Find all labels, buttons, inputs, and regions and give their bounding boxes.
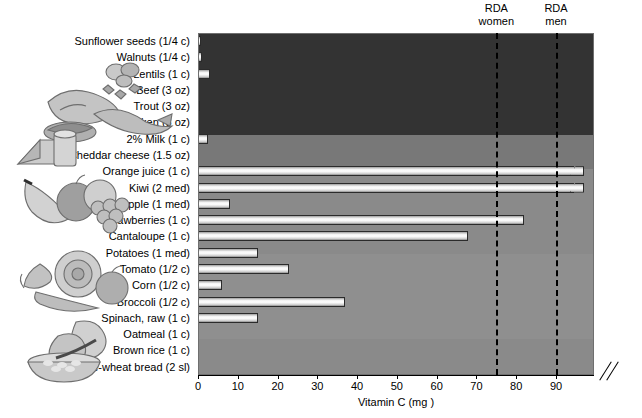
rda-men-line2: men: [516, 15, 596, 28]
vitamin-c-bar-chart: Sunflower seeds (1/4 c)Walnuts (1/4 c)Le…: [0, 0, 642, 418]
x-tick: [357, 375, 358, 379]
bar-row: [198, 245, 594, 262]
bar-row: [198, 98, 594, 115]
bar: [198, 52, 202, 62]
rda-men-line1: RDA: [516, 2, 596, 15]
bar-row: [198, 359, 594, 375]
x-tick: [476, 375, 477, 379]
bar: [198, 215, 524, 225]
bar-row: [198, 277, 594, 294]
x-tick: [278, 375, 279, 379]
plot-area: [198, 33, 594, 375]
bar: [198, 166, 574, 176]
x-tick: [516, 375, 517, 379]
bar-row: [198, 228, 594, 245]
dairy-illustration: [14, 128, 90, 170]
x-tick-label: 60: [417, 380, 457, 392]
bar: [198, 134, 208, 144]
x-axis-title: Vitamin C (mg ): [198, 396, 594, 408]
bar-row: [198, 326, 594, 343]
bar: [198, 248, 258, 258]
bar: [198, 101, 200, 111]
bar-row: [198, 261, 594, 278]
x-tick: [317, 375, 318, 379]
category-label: Sunflower seeds (1/4 c): [74, 33, 190, 50]
vegetable-illustration: [16, 248, 156, 314]
bar-row: [198, 163, 594, 180]
bar-row: [198, 196, 594, 213]
bar-row: [198, 114, 594, 131]
bar-row: [198, 131, 594, 148]
bar: [198, 69, 210, 79]
x-tick: [238, 375, 239, 379]
bar-row: [198, 310, 594, 327]
x-tick: [437, 375, 438, 379]
x-tick-label: 90: [536, 380, 576, 392]
bar-row: [198, 82, 594, 99]
axis-break-icon: [597, 360, 623, 382]
bar: [198, 36, 201, 46]
bar-row: [198, 294, 594, 311]
bar: [198, 313, 258, 323]
bar-row: [198, 180, 594, 197]
bar: [198, 280, 222, 290]
bar-row: [198, 66, 594, 83]
bar: [198, 264, 289, 274]
bar-row: [198, 49, 594, 66]
x-tick-label: 80: [496, 380, 536, 392]
bar-row: [198, 342, 594, 359]
x-tick-label: 70: [456, 380, 496, 392]
x-tick-label: 0: [178, 380, 218, 392]
bar: [198, 231, 468, 241]
rda-women-line: [496, 33, 498, 375]
bar-row: [198, 147, 594, 164]
x-tick-label: 10: [218, 380, 258, 392]
x-tick: [556, 375, 557, 379]
rda-men-label: RDA men: [516, 2, 596, 28]
x-tick-label: 20: [258, 380, 298, 392]
grains-illustration: [18, 318, 146, 384]
bar: [198, 297, 345, 307]
bar-row: [198, 212, 594, 229]
bar-row: [198, 33, 594, 50]
fruit-illustration: [20, 172, 148, 234]
x-tick-label: 50: [377, 380, 417, 392]
x-tick: [397, 375, 398, 379]
x-tick-label: 30: [297, 380, 337, 392]
x-tick-label: 40: [337, 380, 377, 392]
x-tick: [198, 375, 199, 379]
bar: [198, 199, 230, 209]
rda-men-line: [556, 33, 558, 375]
bar: [198, 183, 574, 193]
